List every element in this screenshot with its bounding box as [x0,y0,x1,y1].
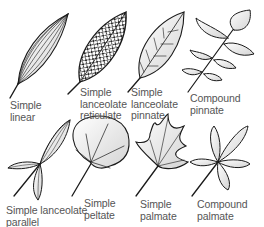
leaf-simple-lanceolate-pinnate-icon [128,12,184,92]
label-simple-linear: Simple linear [10,100,42,123]
leaf-simple-palmate-icon [136,114,188,196]
leaf-simple-lanceolate-reticulate-icon [68,12,126,94]
leaf-compound-palmate-icon [190,126,250,196]
label-simple-lanceolate-pinnate: Simple lanceolate pinnate [131,87,178,122]
label-simple-lanceolate-reticulate: Simple lanceolate pinnate reticulate [80,87,127,122]
label-simple-palmate: Simple palmate [140,199,177,222]
leaf-simple-peltate-icon [72,116,129,196]
label-compound-pinnate: Compound pinnate [190,93,241,116]
leaf-simple-linear-icon [10,14,68,98]
label-simple-lanceolate-parallel: Simple lanceolate parallel [6,205,87,227]
leaf-simple-lanceolate-parallel-icon [8,120,70,200]
label-simple-peltate: Simple peltate [84,198,116,221]
leaf-types-diagram: Simple linear Simple lanceolate pinnate … [0,0,264,227]
leaf-compound-pinnate-icon [182,10,254,92]
label-compound-palmate: Compound palmate [197,199,248,222]
